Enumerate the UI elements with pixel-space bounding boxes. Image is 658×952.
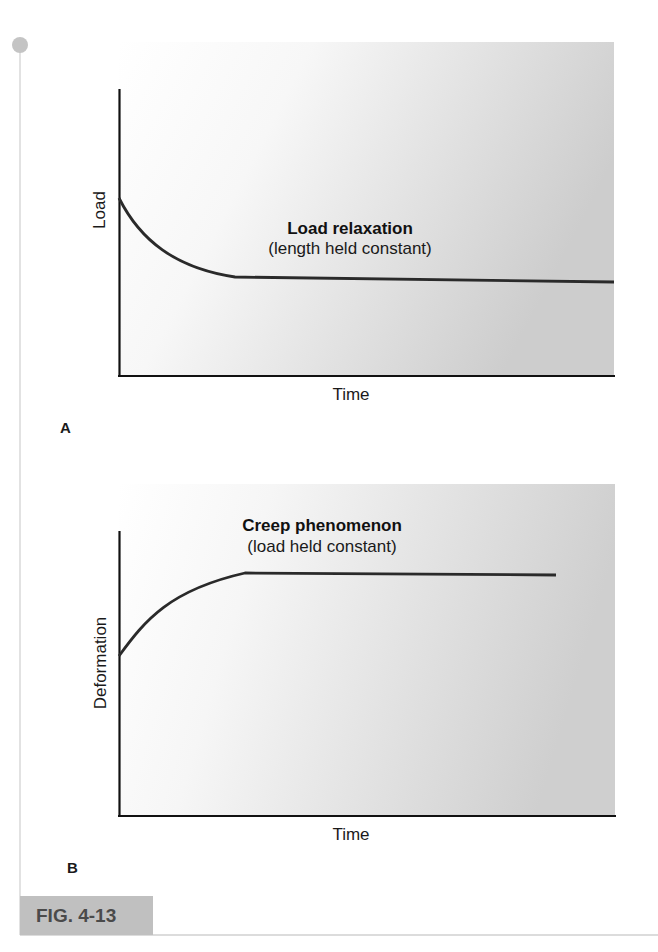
panel-label-b: B <box>67 859 78 876</box>
panel-label-a: A <box>60 419 71 436</box>
chart-subtitle-b: (load held constant) <box>247 537 396 556</box>
plot-background-a <box>119 42 614 376</box>
chart-panel-b: Deformation Time Creep phenomenon (load … <box>0 450 658 860</box>
chart-title-b: Creep phenomenon <box>242 516 402 535</box>
figure-number-label: FIG. 4-13 <box>20 896 153 935</box>
y-axis-label-a: Load <box>90 191 109 229</box>
y-axis-label-b: Deformation <box>91 617 110 710</box>
x-axis-label-a: Time <box>332 385 369 404</box>
chart-title-a: Load relaxation <box>287 219 413 238</box>
chart-panel-a: Load Time Load relaxation (length held c… <box>0 0 658 420</box>
chart-subtitle-a: (length held constant) <box>268 239 432 258</box>
x-axis-label-b: Time <box>332 825 369 844</box>
